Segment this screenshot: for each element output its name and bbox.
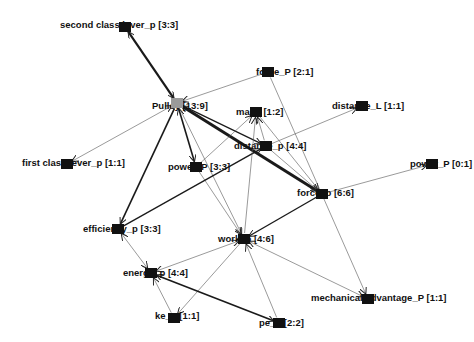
node-square-icon[interactable] — [168, 313, 180, 323]
graph-node[interactable]: power_P [0:1] — [410, 158, 472, 169]
graph-edge[interactable] — [272, 108, 357, 143]
node-square-icon[interactable] — [190, 162, 202, 172]
concept-graph: second class lever_p [3:3]Pulley [13:9]f… — [0, 0, 474, 342]
graph-node[interactable]: ma_p [1:2] — [236, 106, 284, 117]
graph-edge[interactable] — [245, 118, 256, 233]
node-label: power_P [0:1] — [410, 158, 472, 169]
graph-edge[interactable] — [199, 172, 240, 234]
graph-node[interactable]: first class lever_p [1:1] — [22, 157, 125, 169]
node-square-icon[interactable] — [316, 189, 328, 199]
graph-node[interactable]: distance_p [4:4] — [234, 140, 306, 151]
node-square-icon[interactable] — [112, 224, 124, 234]
graph-node[interactable]: force_P [2:1] — [256, 66, 313, 77]
graph-node[interactable]: force_p [6:6] — [297, 187, 354, 199]
graph-edge[interactable] — [122, 234, 148, 268]
graph-edge[interactable] — [249, 197, 317, 236]
node-label: distance_L [1:1] — [332, 100, 404, 111]
graph-node[interactable]: second class lever_p [3:3] — [60, 19, 178, 32]
graph-edge[interactable] — [72, 106, 172, 161]
graph-edge[interactable] — [178, 243, 240, 313]
node-square-icon[interactable] — [356, 101, 368, 111]
graph-node[interactable]: power_P [3:3] — [168, 161, 230, 172]
graph-edge[interactable] — [128, 32, 173, 98]
graph-node[interactable]: distance_L [1:1] — [332, 100, 404, 111]
graph-edge[interactable] — [179, 109, 195, 161]
node-square-icon[interactable] — [273, 318, 285, 328]
node-square-icon[interactable] — [145, 268, 157, 278]
node-square-icon[interactable] — [362, 294, 374, 304]
nodes-layer: second class lever_p [3:3]Pulley [13:9]f… — [22, 19, 472, 328]
node-square-icon[interactable] — [262, 67, 274, 77]
graph-edge[interactable] — [271, 150, 318, 190]
node-square-icon[interactable] — [61, 159, 73, 169]
graph-edge[interactable] — [154, 278, 172, 312]
node-label: first class lever_p [1:1] — [22, 157, 125, 168]
node-square-icon[interactable] — [171, 98, 183, 108]
graph-node[interactable]: Pulley [13:9] — [152, 98, 208, 111]
node-label: mechanical advantage_P [1:1] — [311, 292, 447, 303]
node-square-icon[interactable] — [238, 234, 250, 244]
node-square-icon[interactable] — [119, 22, 131, 32]
node-square-icon[interactable] — [426, 159, 438, 169]
graph-node[interactable]: work_p [4:6] — [217, 233, 274, 244]
graph-edge[interactable] — [246, 245, 276, 318]
node-square-icon[interactable] — [260, 141, 272, 151]
graph-node[interactable]: efficiency_p [3:3] — [83, 223, 161, 234]
graph-edge[interactable] — [183, 74, 263, 101]
graph-edge[interactable] — [249, 242, 362, 297]
graph-node[interactable]: ke_p [1:1] — [155, 310, 199, 323]
graph-edge[interactable] — [121, 108, 175, 223]
graph-node[interactable]: pe_p [2:2] — [259, 317, 304, 328]
graph-node[interactable]: mechanical advantage_P [1:1] — [311, 292, 447, 304]
node-square-icon[interactable] — [250, 107, 262, 117]
graph-node[interactable]: energy_p [4:4] — [123, 267, 188, 278]
